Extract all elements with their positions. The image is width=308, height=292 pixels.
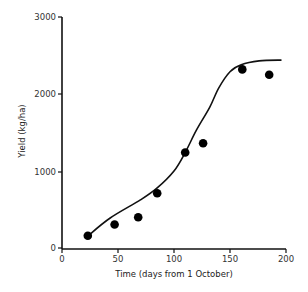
- data-point: [199, 139, 208, 148]
- data-point: [181, 148, 190, 157]
- y-tick-label: 3000: [34, 12, 56, 22]
- x-tick-label: 150: [222, 254, 238, 264]
- y-tick-label: 1000: [34, 167, 56, 177]
- fitted-curve: [88, 60, 282, 236]
- data-point: [134, 213, 143, 222]
- data-point: [265, 71, 274, 80]
- x-ticks: 0 50 100 150 200: [59, 249, 294, 264]
- x-tick-label: 100: [166, 254, 182, 264]
- x-tick-label: 0: [59, 254, 64, 264]
- y-tick-label: 2000: [34, 89, 56, 99]
- x-axis-label: Time (days from 1 October): [114, 269, 233, 279]
- y-ticks: 0 1000 2000 3000: [34, 12, 62, 253]
- plot-area: [84, 60, 282, 240]
- data-point: [84, 231, 93, 240]
- data-point: [238, 65, 247, 74]
- x-tick-label: 50: [113, 254, 124, 264]
- y-tick-label: 0: [51, 243, 56, 253]
- x-tick-label: 200: [278, 254, 294, 264]
- data-point: [110, 220, 119, 229]
- data-point: [153, 189, 162, 198]
- y-axis-label: Yield (kg/ha): [17, 104, 27, 158]
- yield-chart: 0 1000 2000 3000 0 50 100 150 200 Time (…: [0, 0, 308, 292]
